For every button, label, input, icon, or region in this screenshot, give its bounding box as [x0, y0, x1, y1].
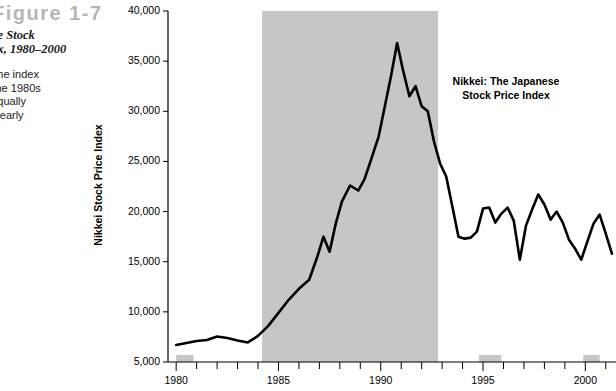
x-tick-label-1980: 1980: [146, 374, 206, 386]
axis-recession-bands-layer: [176, 355, 599, 362]
x-tick-label-1985: 1985: [248, 374, 308, 386]
y-tick-label-30000: 30,000: [114, 104, 160, 116]
y-tick-label-40000: 40,000: [114, 4, 160, 16]
axis-band-0: [176, 355, 193, 362]
y-tick-label-5000: 5,000: [114, 355, 160, 367]
axis-band-2: [373, 355, 391, 362]
series-annotation-line-2: Stock Price Index: [424, 88, 588, 102]
y-tick-label-25000: 25,000: [114, 154, 160, 166]
y-tick-label-10000: 10,000: [114, 305, 160, 317]
y-axis-title: Nikkei Stock Price Index: [92, 95, 104, 275]
x-tick-label-2000: 2000: [555, 374, 615, 386]
y-tick-label-20000: 20,000: [114, 205, 160, 217]
axis-band-4: [583, 355, 599, 362]
figure-page: Figure 1-7 anese Stock Index, 1980–2000 …: [0, 0, 616, 391]
x-tick-label-1990: 1990: [351, 374, 411, 386]
nikkei-line-chart: 40,00035,00030,00025,00020,00015,00010,0…: [0, 0, 616, 391]
y-tick-label-15000: 15,000: [114, 255, 160, 267]
x-tick-label-1995: 1995: [453, 374, 513, 386]
series-annotation: Nikkei: The Japanese Stock Price Index: [424, 74, 588, 102]
axis-band-1: [264, 355, 282, 362]
y-tick-label-35000: 35,000: [114, 54, 160, 66]
axis-band-3: [479, 355, 502, 362]
series-annotation-line-1: Nikkei: The Japanese: [424, 74, 588, 88]
